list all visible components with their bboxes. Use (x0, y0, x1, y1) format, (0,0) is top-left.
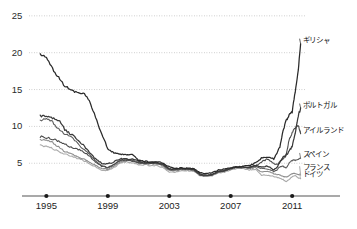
series-label-ireland: アイルランド (303, 124, 344, 135)
series-label-spain: スペイン (303, 148, 330, 159)
y-axis-tick-label: 25 (0, 10, 22, 21)
y-axis-tick-label: 10 (0, 120, 22, 131)
x-axis-tick-label: 1999 (88, 200, 128, 211)
x-axis-tick-label: 2003 (149, 200, 189, 211)
series-label-germany: ドイツ (303, 168, 324, 179)
y-axis-tick-label: 15 (0, 84, 22, 95)
bond-yield-line-chart: 5 10 15 20 25 1995 1999 2003 2007 2011 ギ… (0, 0, 357, 229)
x-axis-tick-label: 2007 (211, 200, 251, 211)
series-label-portugal: ポルトガル (303, 99, 338, 110)
x-axis-tick-label: 1995 (26, 200, 66, 211)
x-axis-tick-label: 2011 (272, 200, 312, 211)
y-axis-tick-label: 20 (0, 47, 22, 58)
series-label-greece: ギリシャ (303, 34, 331, 45)
y-axis-tick-label: 5 (0, 157, 22, 168)
